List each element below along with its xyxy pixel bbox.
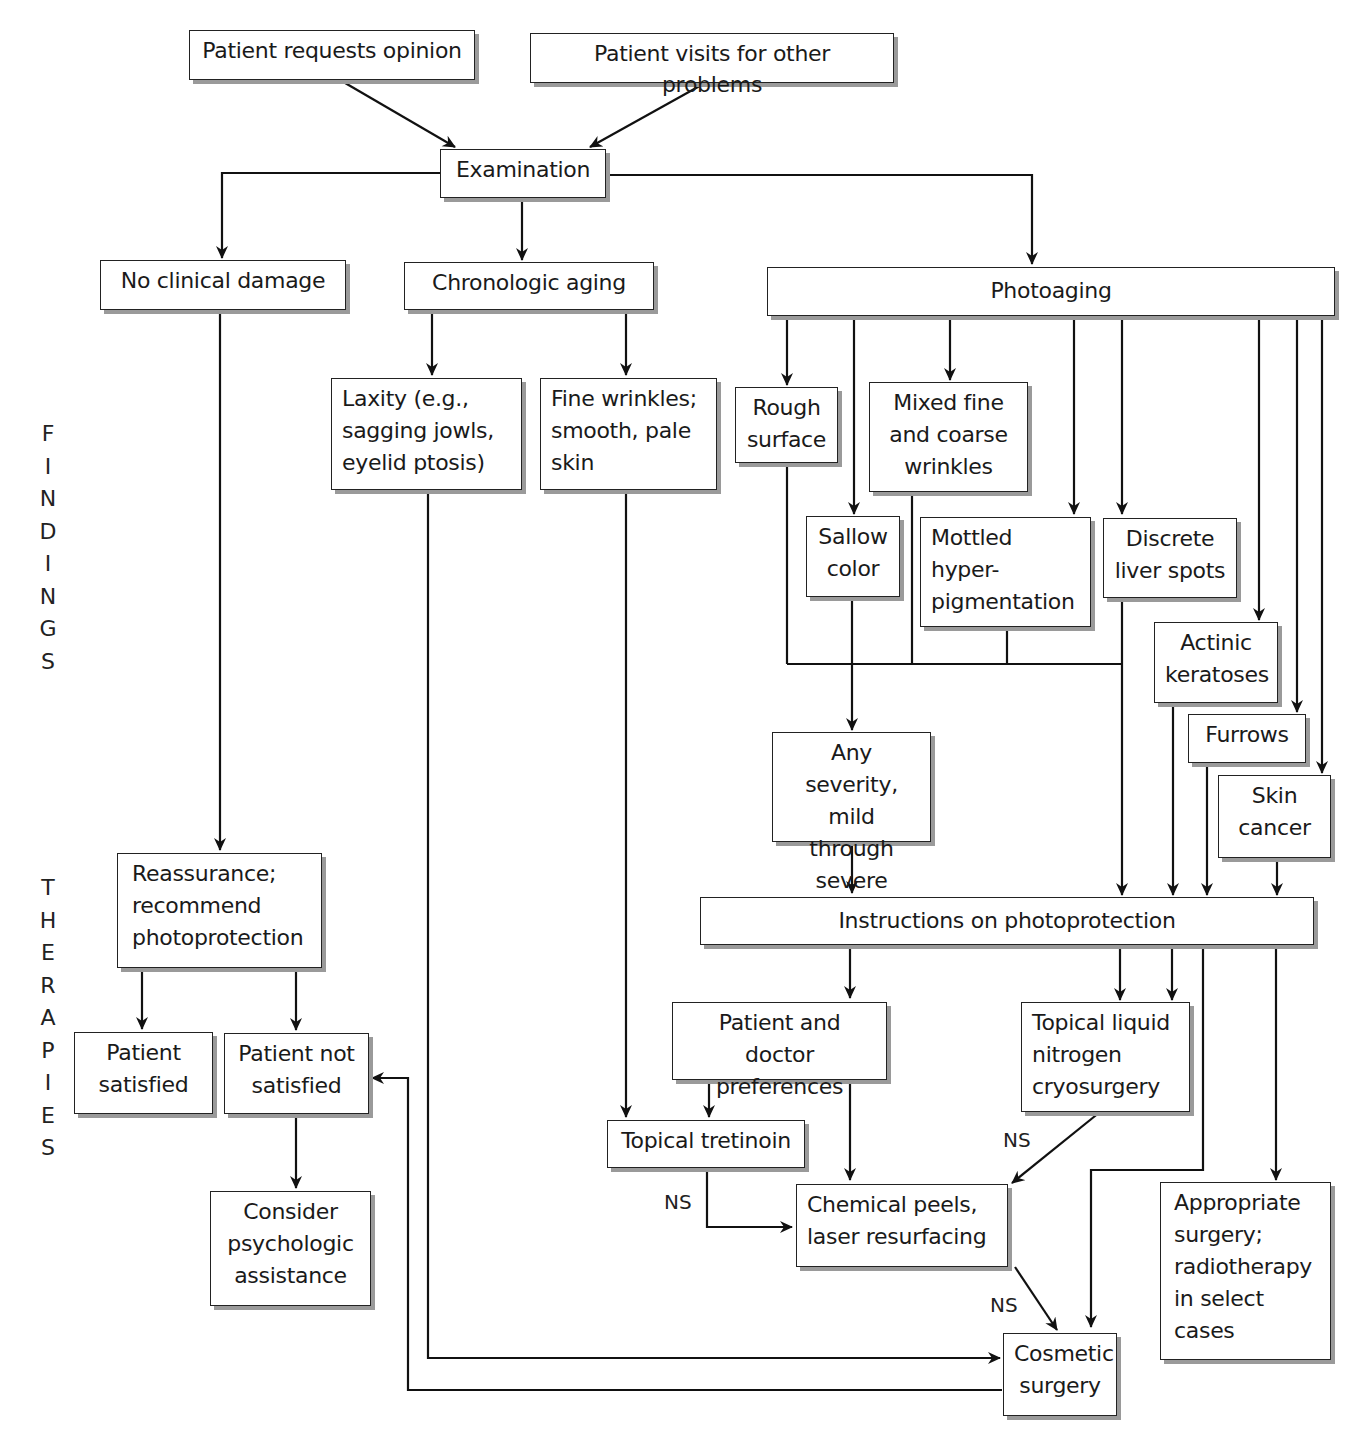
therapies-side-label: T H E R A P I E S xyxy=(36,872,60,1165)
node-instructions-photoprotection: Instructions on photoprotection xyxy=(700,897,1314,945)
node-discrete-liver-spots: Discrete liver spots xyxy=(1103,518,1237,598)
node-topical-liquid-nitrogen-cryosurgery: Topical liquid nitrogen cryosurgery xyxy=(1021,1002,1190,1112)
node-any-severity: Any severity, mild through severe xyxy=(772,732,931,842)
node-no-clinical-damage: No clinical damage xyxy=(100,260,346,310)
node-furrows: Furrows xyxy=(1188,714,1306,763)
node-patient-not-satisfied: Patient not satisfied xyxy=(224,1033,369,1114)
node-mottled-hyperpigmentation: Mottled hyper- pigmentation xyxy=(920,517,1091,627)
node-mixed-fine-coarse-wrinkles: Mixed fine and coarse wrinkles xyxy=(869,382,1028,492)
flowchart-canvas: F I N D I N G S T H E R A P I E S Patien… xyxy=(0,0,1366,1444)
node-patient-doctor-preferences: Patient and doctor preferences xyxy=(672,1002,887,1080)
node-fine-wrinkles: Fine wrinkles; smooth, pale skin xyxy=(540,378,717,490)
node-photoaging: Photoaging xyxy=(767,267,1335,316)
findings-side-label: F I N D I N G S xyxy=(36,418,60,678)
node-appropriate-surgery-radiotherapy: Appropriate surgery; radiotherapy in sel… xyxy=(1160,1182,1331,1360)
node-topical-tretinoin: Topical tretinoin xyxy=(607,1120,805,1168)
node-laxity: Laxity (e.g., sagging jowls, eyelid ptos… xyxy=(331,378,522,490)
node-chemical-peels-laser: Chemical peels, laser resurfacing xyxy=(796,1184,1008,1267)
node-patient-visits-other-problems: Patient visits for other problems xyxy=(530,33,894,83)
node-cosmetic-surgery: Cosmetic surgery xyxy=(1003,1333,1117,1416)
edge-label-ns-cryo: NS xyxy=(1003,1128,1031,1152)
edge-label-ns-peels: NS xyxy=(990,1293,1018,1317)
node-actinic-keratoses: Actinic keratoses xyxy=(1154,622,1278,703)
node-chronologic-aging: Chronologic aging xyxy=(404,262,654,310)
node-consider-psychologic-assistance: Consider psychologic assistance xyxy=(210,1191,371,1306)
node-skin-cancer: Skin cancer xyxy=(1218,775,1331,858)
node-patient-requests-opinion: Patient requests opinion xyxy=(189,30,475,80)
node-rough-surface: Rough surface xyxy=(735,387,838,463)
node-sallow-color: Sallow color xyxy=(806,516,900,597)
node-patient-satisfied: Patient satisfied xyxy=(74,1032,213,1114)
node-reassurance: Reassurance; recommend photoprotection xyxy=(117,853,322,968)
edge-label-ns-tretinoin: NS xyxy=(664,1190,692,1214)
node-examination: Examination xyxy=(440,149,606,198)
